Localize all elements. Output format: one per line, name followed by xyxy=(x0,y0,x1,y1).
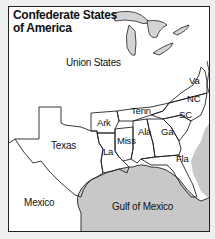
lake-huron xyxy=(147,21,167,38)
map-title-line2: of America xyxy=(13,22,117,35)
north-carolina-label: NC xyxy=(187,93,200,104)
alabama-label: Ala xyxy=(138,126,151,137)
arkansas-label: Ark xyxy=(97,117,111,128)
georgia-label: Ga xyxy=(161,126,173,137)
texas-label: Texas xyxy=(51,140,76,151)
louisiana-label: La xyxy=(103,146,113,157)
gulf-of-mexico-label: Gulf of Mexico xyxy=(112,201,173,212)
atlantic-water xyxy=(191,121,210,197)
south-carolina-label: SC xyxy=(179,109,192,120)
mexico-border xyxy=(9,139,15,143)
tennessee-label: Tenn xyxy=(131,105,151,116)
map-frame: Confederate States of America Union Stat… xyxy=(8,6,210,232)
gulf-water xyxy=(77,165,210,232)
mississippi-label: Miss xyxy=(117,135,136,146)
georgia-border xyxy=(147,119,181,157)
virginia-label: Va xyxy=(189,75,200,86)
union-states-label: Union States xyxy=(66,57,121,68)
florida-label: Fla xyxy=(176,153,189,164)
lake-michigan xyxy=(126,25,136,55)
lake-erie xyxy=(153,43,173,55)
map-title: Confederate States of America xyxy=(13,9,117,35)
lake-superior xyxy=(113,11,151,23)
lake-ontario xyxy=(173,25,189,35)
mexico-label: Mexico xyxy=(24,197,54,208)
